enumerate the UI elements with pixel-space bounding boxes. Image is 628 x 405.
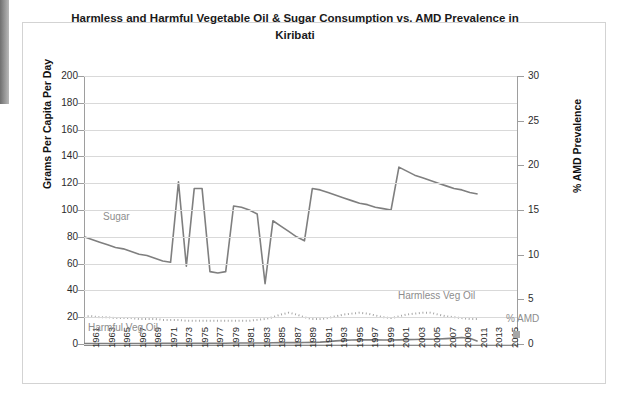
y-tick-right-30: 30 [528, 70, 558, 81]
gridline-100 [84, 210, 517, 211]
x-tick-2005: 2005 [431, 327, 442, 348]
y-tick-right-15: 15 [528, 204, 558, 215]
y-axis-right-title: % AMD Prevalence [571, 61, 583, 231]
y-axis-right-labels: 30 25 20 15 10 5 0 [528, 0, 562, 405]
series-label-sugar: Sugar [103, 211, 130, 222]
y-tick-right-0: 0 [528, 338, 558, 349]
series-label-harmless-veg-oil: Harmless Veg Oil [398, 290, 475, 301]
y-tick-right-25: 25 [528, 115, 558, 126]
chart-title: Harmless and Harmful Vegetable Oil & Sug… [60, 10, 530, 43]
tickmark-right-15 [518, 210, 524, 211]
tickmark-right-5 [518, 299, 524, 300]
x-tick-1977: 1977 [214, 327, 225, 348]
x-tick-2007: 2007 [447, 327, 458, 348]
x-tick-2001: 2001 [400, 327, 411, 348]
x-tick-1973: 1973 [183, 327, 194, 348]
y-tick-right-20: 20 [528, 159, 558, 170]
x-tick-2011: 2011 [478, 328, 489, 348]
x-tick-1999: 1999 [385, 327, 396, 348]
gridline-140 [84, 156, 517, 157]
gridline-120 [84, 183, 517, 184]
tickmark-right-20 [518, 165, 524, 166]
y-tick-left-20: 20 [38, 311, 78, 322]
x-tick-2013: 2013 [493, 327, 504, 348]
x-tick-1995: 1995 [354, 327, 365, 348]
y-axis-left-title: Grams Per Capita Per Day [41, 29, 53, 219]
gridline-80 [84, 237, 517, 238]
x-tick-1983: 1983 [261, 327, 272, 348]
y-axis-left-labels: 200 180 160 140 120 100 80 60 40 20 0 [30, 0, 78, 405]
amd-data-marker [513, 331, 520, 338]
tickmark-right-10 [518, 255, 524, 256]
chart-screenshot: Harmless and Harmful Vegetable Oil & Sug… [0, 0, 628, 405]
gridline-180 [84, 103, 517, 104]
series-line-sugar [84, 167, 478, 284]
y-tick-right-5: 5 [528, 293, 558, 304]
tickmark-right-30 [518, 76, 524, 77]
gridline-60 [84, 264, 517, 265]
y-tick-left-0: 0 [38, 338, 78, 349]
y-tick-left-60: 60 [38, 258, 78, 269]
x-tick-1989: 1989 [307, 327, 318, 348]
y-tick-left-40: 40 [38, 284, 78, 295]
x-tick-1975: 1975 [199, 327, 210, 348]
gridline-160 [84, 130, 517, 131]
x-tick-1993: 1993 [338, 327, 349, 348]
plot-area [84, 76, 517, 344]
x-tick-1981: 1981 [245, 327, 256, 348]
series-label-harmful-veg-oil: Harmful Veg Oil [88, 322, 158, 333]
x-tick-2009: 2009 [462, 327, 473, 348]
window-edge-strip [0, 0, 9, 104]
x-tick-1985: 1985 [276, 327, 287, 348]
x-tick-1979: 1979 [230, 327, 241, 348]
x-tick-1987: 1987 [292, 327, 303, 348]
gridline-200 [84, 76, 517, 77]
y-tick-right-10: 10 [528, 249, 558, 260]
x-tick-1997: 1997 [369, 327, 380, 348]
series-label-amd: % AMD [506, 313, 539, 324]
x-tick-1971: 1971 [168, 327, 179, 348]
x-tick-1991: 1991 [323, 327, 334, 348]
y-tick-left-80: 80 [38, 231, 78, 242]
gridline-20 [84, 317, 517, 318]
x-tick-2003: 2003 [416, 327, 427, 348]
tickmark-right-25 [518, 121, 524, 122]
